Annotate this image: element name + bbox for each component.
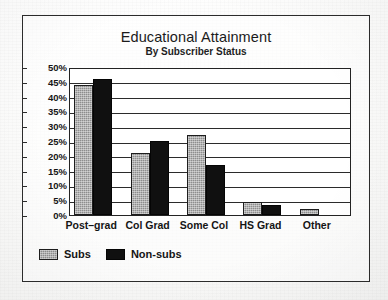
x-axis-tick-label: HS Grad <box>232 219 288 232</box>
x-axis-tick-label: Some Col <box>176 219 232 232</box>
y-axis-tick-label: 50% <box>27 63 67 73</box>
y-axis-tick-label: 30% <box>27 122 67 132</box>
bars-layer <box>70 69 350 215</box>
chart-legend: SubsNon-subs <box>39 248 182 260</box>
y-axis-tick-mark <box>23 83 27 84</box>
bar-subs-other <box>300 209 319 215</box>
solid-black-swatch <box>106 249 125 260</box>
chart-subtitle: By Subscriber Status <box>23 46 369 58</box>
legend-entry: Subs <box>39 248 91 260</box>
y-axis-tick-mark <box>23 68 27 69</box>
x-axis-tick-labels: Post–gradCol GradSome ColHS GradOther <box>69 219 351 235</box>
gray-stipple-swatch <box>39 249 58 260</box>
y-axis-tick-label: 0% <box>27 211 67 221</box>
y-axis-tick-mark <box>23 172 27 173</box>
y-axis-tick-label: 15% <box>27 167 67 177</box>
chart-title: Educational Attainment <box>23 29 369 45</box>
bar-non-subs-some-col <box>206 165 225 215</box>
legend-label: Subs <box>64 248 91 260</box>
x-axis-tick-label: Other <box>289 219 345 232</box>
legend-label: Non-subs <box>131 248 182 260</box>
y-axis-tick-mark <box>23 186 27 187</box>
y-axis-tick-label: 35% <box>27 107 67 117</box>
y-axis-tick-mark <box>23 127 27 128</box>
chart-figure-frame: Educational Attainment By Subscriber Sta… <box>22 15 370 282</box>
y-axis-tick-label: 25% <box>27 137 67 147</box>
y-axis-tick-label: 40% <box>27 93 67 103</box>
y-axis-tick-mark <box>23 216 27 217</box>
y-axis-tick-label: 10% <box>27 181 67 191</box>
y-axis-tick-label: 45% <box>27 78 67 88</box>
screenshot-canvas: Educational Attainment By Subscriber Sta… <box>0 0 388 300</box>
bar-non-subs-post-grad <box>93 79 112 215</box>
bar-non-subs-hs-grad <box>262 205 281 215</box>
y-axis-tick-label: 20% <box>27 152 67 162</box>
y-axis-tick-mark <box>23 112 27 113</box>
bar-subs-hs-grad <box>243 202 262 215</box>
legend-entry: Non-subs <box>106 248 182 260</box>
plot-area: 50%45%40%35%30%25%20%15%10%5%0% <box>69 68 351 216</box>
x-axis-tick-label: Post–grad <box>63 219 119 232</box>
bar-non-subs-col-grad <box>150 141 169 215</box>
plot-frame <box>69 68 351 216</box>
x-axis-tick-label: Col Grad <box>119 219 175 232</box>
y-axis-tick-mark <box>23 201 27 202</box>
chart-title-block: Educational Attainment By Subscriber Sta… <box>23 29 369 58</box>
bar-subs-post-grad <box>74 85 93 215</box>
bar-subs-col-grad <box>131 153 150 215</box>
y-axis-tick-label: 5% <box>27 196 67 206</box>
bar-subs-some-col <box>187 135 206 215</box>
y-axis-tick-mark <box>23 157 27 158</box>
y-axis-tick-mark <box>23 98 27 99</box>
y-axis-tick-mark <box>23 142 27 143</box>
